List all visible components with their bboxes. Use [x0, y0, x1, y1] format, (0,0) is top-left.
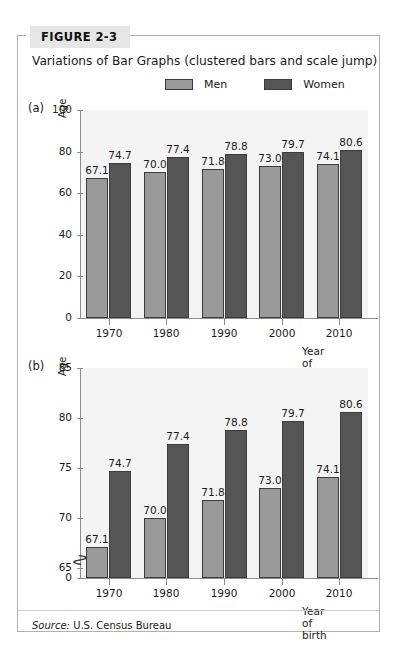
x-tick-label: 1990 — [200, 587, 248, 599]
y-tick-label: 60 — [42, 186, 72, 198]
bar-men-2010 — [317, 477, 339, 578]
y-tick-label: 80 — [42, 145, 72, 157]
y-tick-label: 85 — [42, 361, 72, 373]
y-tick-label: 65 — [42, 561, 72, 573]
chart-legend: Men Women — [165, 78, 345, 91]
bar-value-label: 80.6 — [331, 136, 371, 148]
bar-men-2010 — [317, 164, 339, 318]
panel-a-y-axis — [80, 110, 81, 319]
legend-swatch-men-icon — [165, 79, 193, 90]
figure-number-tab: FIGURE 2-3 — [30, 26, 130, 48]
y-tick-mark — [77, 193, 83, 194]
bar-women-1980 — [167, 157, 189, 318]
bar-men-1980 — [144, 518, 166, 578]
y-tick-mark — [77, 235, 83, 236]
source-note: Source: U.S. Census Bureau — [32, 620, 171, 631]
x-tick-label: 2000 — [258, 327, 306, 339]
y-tick-mark — [77, 368, 83, 369]
x-tick-mark — [109, 319, 110, 325]
x-tick-label: 1980 — [142, 327, 190, 339]
x-tick-label: 2010 — [315, 327, 363, 339]
bar-women-1990 — [225, 430, 247, 578]
y-tick-mark — [77, 276, 83, 277]
bar-women-2010 — [340, 412, 362, 578]
y-tick-label: 80 — [42, 411, 72, 423]
bar-men-2000 — [259, 166, 281, 318]
bar-women-2000 — [282, 421, 304, 578]
x-tick-mark — [339, 319, 340, 325]
y-tick-mark — [77, 518, 83, 519]
y-tick-label: 40 — [42, 228, 72, 240]
x-tick-mark — [224, 319, 225, 325]
bar-women-2010 — [340, 150, 362, 318]
bar-women-1970 — [109, 163, 131, 318]
y-tick-mark — [77, 152, 83, 153]
x-tick-label: 1970 — [85, 327, 133, 339]
figure-caption: Variations of Bar Graphs (clustered bars… — [32, 54, 377, 68]
bar-men-1970 — [86, 547, 108, 578]
bar-women-1970 — [109, 471, 131, 578]
y-tick-mark — [77, 568, 83, 569]
panel-b-x-axis — [80, 578, 378, 579]
x-tick-mark — [282, 319, 283, 325]
bar-value-label: 77.4 — [158, 430, 198, 442]
bar-men-1980 — [144, 172, 166, 318]
source-text: U.S. Census Bureau — [73, 620, 171, 631]
y-tick-label: 75 — [42, 461, 72, 473]
x-tick-label: 2010 — [315, 587, 363, 599]
bar-value-label: 80.6 — [331, 398, 371, 410]
x-tick-mark — [109, 579, 110, 585]
x-tick-mark — [166, 579, 167, 585]
x-tick-mark — [339, 579, 340, 585]
x-tick-mark — [166, 319, 167, 325]
x-tick-mark — [224, 579, 225, 585]
bar-value-label: 79.7 — [273, 407, 313, 419]
bar-value-label: 74.7 — [100, 457, 140, 469]
legend-label-men: Men — [204, 78, 227, 91]
x-tick-label: 1990 — [200, 327, 248, 339]
y-tick-mark — [77, 468, 83, 469]
bar-women-1980 — [167, 444, 189, 578]
legend-label-women: Women — [303, 78, 344, 91]
bar-value-label: 78.8 — [216, 140, 256, 152]
source-prefix: Source: — [32, 620, 70, 631]
bar-men-2000 — [259, 488, 281, 578]
y-tick-mark — [77, 418, 83, 419]
bar-value-label: 79.7 — [273, 138, 313, 150]
y-tick-label: 70 — [42, 511, 72, 523]
y-tick-mark — [77, 318, 83, 319]
bar-women-1990 — [225, 154, 247, 318]
panel-a-x-axis — [80, 318, 378, 319]
y-tick-mark — [77, 578, 83, 579]
legend-item-men: Men — [165, 78, 227, 91]
legend-swatch-women-icon — [264, 79, 292, 90]
y-tick-label: 0 — [42, 311, 72, 323]
bar-men-1990 — [202, 169, 224, 318]
y-tick-label: 100 — [42, 103, 72, 115]
bar-women-2000 — [282, 152, 304, 318]
x-tick-label: 1970 — [85, 587, 133, 599]
panel-b-y-axis — [80, 368, 81, 579]
y-tick-mark — [77, 110, 83, 111]
y-tick-label: 20 — [42, 269, 72, 281]
source-divider — [18, 610, 379, 611]
bar-value-label: 77.4 — [158, 143, 198, 155]
x-tick-label: 1980 — [142, 587, 190, 599]
x-tick-label: 2000 — [258, 587, 306, 599]
legend-item-women: Women — [264, 78, 344, 91]
x-tick-mark — [282, 579, 283, 585]
bar-men-1990 — [202, 500, 224, 578]
bar-value-label: 74.7 — [100, 149, 140, 161]
bar-men-1970 — [86, 178, 108, 318]
bar-value-label: 78.8 — [216, 416, 256, 428]
